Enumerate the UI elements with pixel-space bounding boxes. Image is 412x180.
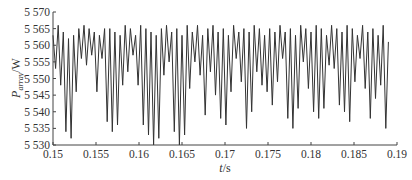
x-tick-label: 0.155 bbox=[83, 148, 109, 160]
x-axis-title: t/s bbox=[219, 161, 231, 175]
y-axis-subscript: array bbox=[16, 72, 25, 90]
x-axis-unit: /s bbox=[223, 161, 231, 175]
x-tick-label: 0.18 bbox=[301, 148, 321, 160]
y-axis-ticks: 5 5305 5355 5405 5455 5505 5555 5605 565… bbox=[24, 6, 56, 151]
svg-text:t/s: t/s bbox=[219, 161, 231, 175]
x-tick-label: 0.185 bbox=[341, 148, 367, 160]
svg-text:Parray/W: Parray/W bbox=[9, 57, 25, 98]
power-series-line bbox=[53, 25, 388, 145]
y-tick-label: 5 560 bbox=[24, 39, 50, 51]
x-tick-label: 0.16 bbox=[129, 148, 149, 160]
y-tick-label: 5 550 bbox=[24, 73, 50, 85]
x-tick-label: 0.17 bbox=[215, 148, 235, 160]
x-tick-label: 0.15 bbox=[43, 148, 63, 160]
y-tick-label: 5 540 bbox=[24, 106, 50, 118]
x-tick-label: 0.165 bbox=[169, 148, 195, 160]
power-chart: 5 5305 5355 5405 5455 5505 5555 5605 565… bbox=[0, 0, 412, 180]
y-tick-label: 5 570 bbox=[24, 6, 50, 18]
y-tick-label: 5 535 bbox=[24, 122, 50, 134]
y-axis-unit: /W bbox=[9, 57, 23, 72]
y-tick-label: 5 555 bbox=[24, 56, 50, 68]
y-tick-label: 5 565 bbox=[24, 23, 50, 35]
y-axis-title: Parray/W bbox=[9, 57, 25, 98]
x-tick-label: 0.175 bbox=[255, 148, 281, 160]
x-tick-label: 0.19 bbox=[387, 148, 407, 160]
y-tick-label: 5 545 bbox=[24, 89, 50, 101]
plot-area bbox=[53, 25, 388, 145]
